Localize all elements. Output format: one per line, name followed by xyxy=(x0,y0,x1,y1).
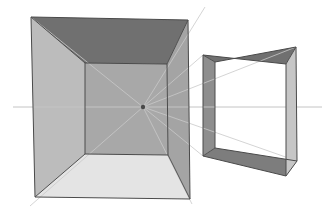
perspective-drawing xyxy=(0,0,328,215)
large-box-back-wall-face xyxy=(85,63,168,155)
large-box xyxy=(31,17,190,199)
small-box-right-face xyxy=(286,47,297,176)
drawing-canvas xyxy=(0,0,328,215)
vanishing-point-marker xyxy=(141,105,145,109)
small-box-left-face xyxy=(203,55,215,156)
small-box xyxy=(203,47,297,176)
